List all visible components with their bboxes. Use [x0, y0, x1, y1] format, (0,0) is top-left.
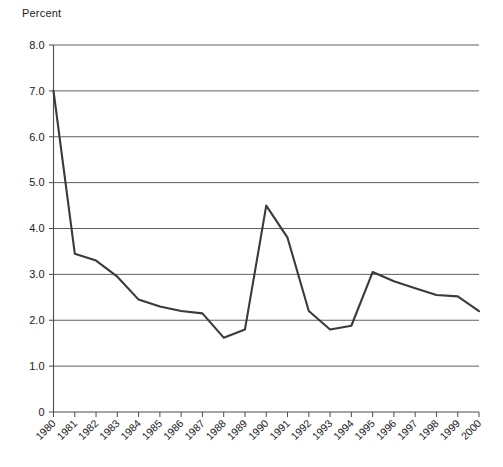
data-line [54, 91, 480, 338]
x-tick-label: 1996 [373, 417, 398, 442]
x-tick-label: 1999 [437, 417, 462, 442]
x-tick-label: 1987 [182, 417, 207, 442]
x-tick-label: 1993 [309, 417, 334, 442]
x-tick-label: 1988 [203, 417, 228, 442]
x-tick-label: 1984 [118, 417, 143, 442]
x-tick-label: 1992 [288, 417, 313, 442]
x-tick-label: 1990 [246, 417, 271, 442]
data-series [54, 91, 480, 338]
x-tick-label: 1980 [33, 417, 58, 442]
y-tick-label: 7.0 [29, 85, 44, 97]
x-tick-label: 1986 [161, 417, 186, 442]
y-tick-label: 3.0 [29, 268, 44, 280]
y-tick-label: 5.0 [29, 176, 44, 188]
x-axis-tick-labels: 1980198119821983198419851986198719881989… [33, 417, 484, 442]
x-tick-label: 1985 [139, 417, 164, 442]
x-tick-label: 1981 [54, 417, 79, 442]
x-tick-label: 2000 [458, 417, 483, 442]
x-tick-label: 1983 [97, 417, 122, 442]
x-tick-label: 1994 [331, 417, 356, 442]
y-axis-ticks [49, 45, 54, 412]
x-tick-label: 1997 [395, 417, 420, 442]
line-chart: Percent 01.02.03.04.05.06.07.08.0 198019… [0, 0, 503, 467]
y-axis-tick-labels: 01.02.03.04.05.06.07.08.0 [29, 39, 44, 418]
y-tick-label: 0 [38, 406, 44, 418]
y-tick-label: 2.0 [29, 314, 44, 326]
chart-canvas: 01.02.03.04.05.06.07.08.0 19801981198219… [0, 0, 503, 467]
x-tick-label: 1989 [224, 417, 249, 442]
y-tick-label: 6.0 [29, 131, 44, 143]
x-axis-ticks [54, 412, 480, 417]
y-tick-label: 8.0 [29, 39, 44, 51]
y-tick-label: 4.0 [29, 222, 44, 234]
x-tick-label: 1991 [267, 417, 292, 442]
x-tick-label: 1995 [352, 417, 377, 442]
x-tick-label: 1982 [75, 417, 100, 442]
x-tick-label: 1998 [416, 417, 441, 442]
y-tick-label: 1.0 [29, 360, 44, 372]
